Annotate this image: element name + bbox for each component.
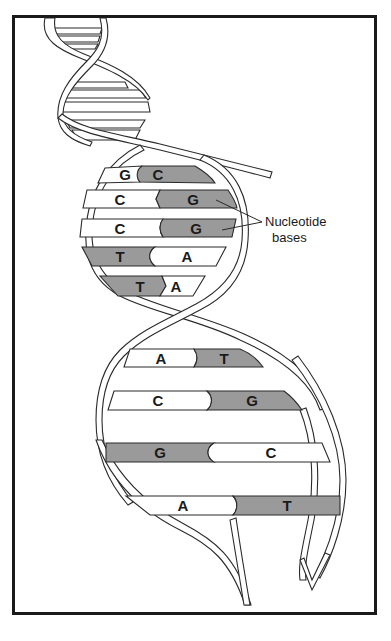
backbone-strand <box>96 440 251 605</box>
callout-label-line2: bases <box>272 230 307 245</box>
backbone-strand <box>292 356 346 578</box>
base-pair-5: T A <box>100 276 205 296</box>
svg-text:C: C <box>115 220 126 237</box>
base-pair-1: G C <box>98 166 215 183</box>
base-pair-4: T A <box>82 247 226 266</box>
dna-helix-diagram: G C C G C G T A T A <box>0 0 391 641</box>
callout-label-line1: Nucleotide <box>265 214 326 229</box>
base-pair-7: C G <box>108 391 302 410</box>
svg-text:T: T <box>115 248 124 265</box>
svg-text:A: A <box>182 248 193 265</box>
svg-text:C: C <box>115 191 126 208</box>
base-pair-3: C G <box>80 219 236 237</box>
svg-text:T: T <box>282 497 291 514</box>
backbone-strand <box>300 553 330 590</box>
svg-text:G: G <box>246 392 258 409</box>
svg-text:G: G <box>119 166 131 183</box>
svg-text:C: C <box>153 166 164 183</box>
svg-text:A: A <box>156 350 167 367</box>
svg-text:A: A <box>171 278 182 295</box>
base-pair-9: A T <box>126 496 340 515</box>
svg-text:A: A <box>178 497 189 514</box>
base-pair-8: G C <box>106 443 330 462</box>
svg-text:T: T <box>135 278 144 295</box>
svg-text:G: G <box>187 191 199 208</box>
base-pair-6: A T <box>124 349 263 367</box>
svg-text:C: C <box>153 392 164 409</box>
svg-text:G: G <box>190 220 202 237</box>
base-pair-2: C G <box>83 190 237 208</box>
svg-text:T: T <box>219 350 228 367</box>
backbone-strand <box>299 408 317 580</box>
svg-text:G: G <box>154 444 166 461</box>
svg-text:C: C <box>266 444 277 461</box>
